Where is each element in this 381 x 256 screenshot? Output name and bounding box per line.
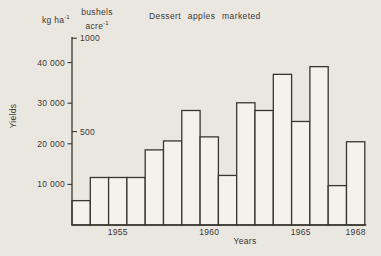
left-tick-label-30000: 30 000 <box>37 98 65 108</box>
bar-1961 <box>218 175 236 225</box>
bar-1965 <box>292 121 310 225</box>
right-axis-unit-exponent: -1 <box>103 20 108 26</box>
bar-1957 <box>145 150 163 225</box>
bar-1959 <box>182 110 200 225</box>
x-tick-label-1960: 1960 <box>199 227 219 237</box>
bar-1958 <box>164 141 182 225</box>
bar-1963 <box>255 110 273 225</box>
right-axis-unit: bushels acre-1 <box>79 7 115 32</box>
left-axis-unit: kg ha-1 <box>42 12 70 26</box>
bar-chart-canvas: 10 00020 00030 00040 0005001000195519601… <box>0 0 381 256</box>
y-axis-title: Yields <box>8 66 20 166</box>
bar-1960 <box>200 137 218 225</box>
right-tick-label-1000: 1000 <box>80 33 100 43</box>
x-axis-title: Years <box>225 236 265 247</box>
x-tick-label-1968: 1968 <box>346 227 366 237</box>
x-tick-label-1955: 1955 <box>108 227 128 237</box>
left-tick-label-10000: 10 000 <box>37 179 65 189</box>
left-tick-label-40000: 40 000 <box>37 58 65 68</box>
bar-1953 <box>72 201 90 225</box>
bar-1964 <box>273 74 291 225</box>
right-axis-unit-line2: acre <box>85 21 103 31</box>
bar-1955 <box>109 177 127 225</box>
left-axis-unit-base: kg ha <box>42 15 64 25</box>
bar-1967 <box>328 186 346 225</box>
figure: 10 00020 00030 00040 0005001000195519601… <box>0 0 381 256</box>
right-axis-unit-line1: bushels <box>81 7 112 17</box>
x-tick-label-1965: 1965 <box>291 227 311 237</box>
bar-1956 <box>127 177 145 225</box>
left-axis-unit-exponent: -1 <box>64 14 69 20</box>
bar-1954 <box>90 177 108 225</box>
bar-1968 <box>347 142 365 225</box>
right-tick-label-500: 500 <box>80 127 95 137</box>
left-tick-label-20000: 20 000 <box>37 139 65 149</box>
bar-1966 <box>310 67 328 225</box>
chart-title: Dessert apples marketed <box>149 11 261 22</box>
bar-1962 <box>237 103 255 225</box>
